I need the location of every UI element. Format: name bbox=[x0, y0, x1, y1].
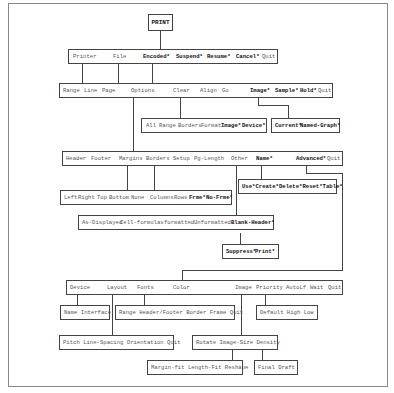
menu-item-frme[interactable]: Frme* bbox=[189, 191, 206, 204]
menu-item-range[interactable]: Range bbox=[159, 119, 176, 132]
connector bbox=[240, 233, 241, 244]
connector bbox=[82, 63, 83, 83]
name-menu[interactable]: Use*Create*Delete*Reset*Table* bbox=[238, 179, 337, 194]
menu-item-cell-formulas[interactable]: Cell-formulas bbox=[120, 216, 164, 229]
priority-menu[interactable]: Default High Low bbox=[256, 305, 318, 320]
image-menu: Current* Named-Graph* bbox=[271, 118, 340, 133]
clear-menu: All Range Borders Format Image* Device* bbox=[141, 118, 267, 133]
connector bbox=[160, 31, 161, 49]
margins-borders-menu: Left Right Top Bottom None Columns Rows … bbox=[60, 190, 232, 205]
menu-item-fonts[interactable]: Fonts bbox=[137, 281, 154, 294]
menu-item-hold[interactable]: Hold* bbox=[300, 84, 317, 97]
menu-item-range[interactable]: Range bbox=[63, 84, 80, 97]
connector bbox=[127, 166, 128, 190]
print-root-node[interactable]: PRINT bbox=[148, 14, 173, 31]
menu-item-footer[interactable]: Footer bbox=[91, 152, 111, 165]
menu-item-print[interactable]: Print* bbox=[255, 245, 275, 258]
layout-menu[interactable]: Pitch Line-Spacing Orientation Quit bbox=[59, 335, 174, 350]
menu-item-wait[interactable]: Wait bbox=[310, 281, 323, 294]
menu-item-none[interactable]: None bbox=[131, 191, 144, 204]
menu-item-borders[interactable]: Borders bbox=[146, 152, 170, 165]
density-menu[interactable]: Final Draft bbox=[254, 360, 298, 375]
menu-item-file[interactable]: File bbox=[113, 50, 126, 63]
fonts-menu[interactable]: Range Header/Footer Border Frame Quit bbox=[115, 305, 235, 320]
menu-item-quit[interactable]: Quit bbox=[262, 50, 275, 63]
menu-item-left[interactable]: Left bbox=[64, 191, 77, 204]
menu-item-image[interactable]: Image* bbox=[250, 84, 270, 97]
menu-item-color[interactable]: Color bbox=[173, 281, 190, 294]
menu-item-all[interactable]: All bbox=[146, 119, 156, 132]
menu-item-current[interactable]: Current* bbox=[275, 119, 302, 132]
menu-item-header[interactable]: Header bbox=[66, 152, 86, 165]
menu-item-top[interactable]: Top bbox=[97, 191, 107, 204]
options-menu: Header Footer Margins Borders Setup Pg-L… bbox=[62, 151, 343, 166]
print-main-menu: Printer File Encoded* Suspend* Resume* C… bbox=[68, 49, 278, 64]
menu-item-go[interactable]: Go bbox=[222, 84, 229, 97]
menu-item-page[interactable]: Page bbox=[102, 84, 115, 97]
menu-item-columns[interactable]: Columns bbox=[150, 191, 174, 204]
connector bbox=[306, 166, 307, 173]
menu-item-priority[interactable]: Priority bbox=[256, 281, 283, 294]
menu-item-quit[interactable]: Quit bbox=[327, 152, 340, 165]
menu-item-right[interactable]: Right bbox=[78, 191, 95, 204]
connector bbox=[182, 270, 183, 280]
menu-item-cancel[interactable]: Cancel* bbox=[236, 50, 260, 63]
menu-item-autolf[interactable]: AutoLf bbox=[286, 281, 306, 294]
menu-item-rows[interactable]: Rows bbox=[174, 191, 187, 204]
connector bbox=[144, 295, 145, 305]
advanced-menu: Device Layout Fonts Color Image Priority… bbox=[66, 280, 343, 295]
menu-item-name[interactable]: Name* bbox=[256, 152, 273, 165]
menu-item-bottom[interactable]: Bottom bbox=[109, 191, 129, 204]
menu-item-blank-header[interactable]: Blank-Header* bbox=[231, 216, 275, 229]
connector bbox=[118, 63, 119, 83]
menu-item-format[interactable]: Format bbox=[201, 119, 221, 132]
printer-menu: Range Line Page Options Clear Align Go I… bbox=[59, 83, 333, 98]
menu-item-image[interactable]: Image bbox=[235, 281, 252, 294]
menu-item-other[interactable]: Other bbox=[231, 152, 248, 165]
menu-item-encoded[interactable]: Encoded* bbox=[143, 50, 170, 63]
menu-item-quit[interactable]: Quit bbox=[328, 281, 341, 294]
connector bbox=[258, 97, 259, 105]
menu-item-no-frme[interactable]: No-Frme* bbox=[206, 191, 233, 204]
menu-item-margins[interactable]: Margins bbox=[119, 152, 143, 165]
menu-item-image[interactable]: Image* bbox=[221, 119, 241, 132]
menu-item-device[interactable]: Device* bbox=[242, 119, 266, 132]
connector bbox=[77, 295, 78, 305]
menu-item-named-graph[interactable]: Named-Graph* bbox=[300, 119, 340, 132]
image-size-menu[interactable]: Margin-fit Length-Fit Reshape bbox=[147, 360, 243, 375]
print-menu-tree-diagram: PRINT Printer File Encoded* Suspend* Res… bbox=[0, 0, 394, 393]
device-menu[interactable]: Name Interface bbox=[60, 305, 110, 320]
connector bbox=[152, 63, 153, 83]
menu-item-as-displayed[interactable]: As-Displayed bbox=[82, 216, 122, 229]
other-menu: As-Displayed Cell-formulas formatted Unf… bbox=[78, 215, 274, 230]
connector bbox=[182, 270, 343, 271]
menu-item-device[interactable]: Device bbox=[70, 281, 90, 294]
menu-item-quit[interactable]: Quit bbox=[318, 84, 331, 97]
menu-item-resume[interactable]: Resume* bbox=[207, 50, 231, 63]
menu-item-sample[interactable]: Sample* bbox=[275, 84, 299, 97]
connector bbox=[306, 173, 343, 174]
menu-item-options[interactable]: Options bbox=[131, 84, 155, 97]
connector bbox=[112, 295, 113, 335]
menu-item-formatted[interactable]: formatted bbox=[164, 216, 194, 229]
menu-item-layout[interactable]: Layout bbox=[107, 281, 127, 294]
blank-header-menu: Suppress* Print* bbox=[222, 244, 279, 259]
connector bbox=[262, 350, 263, 360]
menu-item-borders[interactable]: Borders bbox=[178, 119, 202, 132]
menu-item-setup[interactable]: Setup bbox=[173, 152, 190, 165]
connector bbox=[180, 97, 181, 118]
connector bbox=[133, 97, 134, 151]
menu-item-clear[interactable]: Clear bbox=[173, 84, 190, 97]
adv-image-menu[interactable]: Rotate Image-Size Density bbox=[192, 335, 278, 350]
menu-item-suppress[interactable]: Suppress* bbox=[226, 245, 256, 258]
menu-item-unformatted[interactable]: Unformatted bbox=[194, 216, 231, 229]
connector bbox=[236, 166, 237, 215]
menu-item-line[interactable]: Line bbox=[84, 84, 97, 97]
menu-item-advanced[interactable]: Advanced* bbox=[296, 152, 326, 165]
connector bbox=[154, 166, 155, 190]
menu-item-align[interactable]: Align bbox=[200, 84, 217, 97]
menu-item-suspend[interactable]: Suspend* bbox=[176, 50, 203, 63]
menu-item-printer[interactable]: Printer bbox=[73, 50, 97, 63]
menu-item-pg-length[interactable]: Pg-Length bbox=[194, 152, 224, 165]
connector bbox=[261, 166, 262, 179]
